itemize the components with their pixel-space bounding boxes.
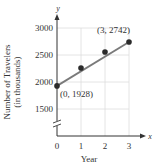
y-axis-arrow-icon [55,14,60,20]
y-axis-subtitle: (in thousands) [12,56,22,107]
grid-lines [57,28,129,136]
x-axis-name: x [147,132,152,141]
chart-canvas: yx 15002000250030000123 (0, 1928)(3, 274… [0,0,156,166]
data-point [54,83,60,89]
data-point [126,39,132,45]
y-tick-label: 2000 [35,77,54,87]
x-tick-label: 2 [103,141,108,151]
data-point [102,49,108,55]
x-tick-label: 3 [127,141,132,151]
data-point [78,65,84,71]
x-tick-label: 1 [79,141,84,151]
annotation-end: (3, 2742) [97,25,130,35]
y-tick-label: 3000 [35,23,54,33]
annotation-start: (0, 1928) [60,89,93,99]
y-axis-name: y [55,4,60,13]
x-axis-title: Year [81,154,98,164]
data-series [54,39,132,89]
y-tick-label: 1500 [35,104,54,114]
x-axis-arrow-icon [140,134,146,139]
trend-line [57,42,129,86]
y-axis-title: Number of Travelers [2,44,12,119]
x-tick-label: 0 [55,141,60,151]
tick-labels: 15002000250030000123 [35,23,132,151]
y-tick-label: 2500 [35,50,54,60]
